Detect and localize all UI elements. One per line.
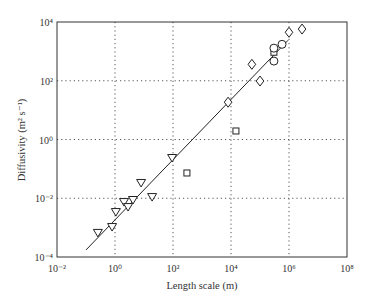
- x-axis-ticks: 10⁻²10⁰10²10⁴10⁶10⁸: [48, 263, 354, 274]
- diamond-marker: [298, 24, 306, 34]
- triangle-marker: [137, 179, 146, 187]
- chart: 10⁻²10⁰10²10⁴10⁶10⁸ 10⁻⁴10⁻²10⁰10²10⁴ Le…: [0, 0, 372, 299]
- y-tick-label: 10⁻⁴: [35, 252, 54, 263]
- y-axis-ticks: 10⁻⁴10⁻²10⁰10²10⁴: [35, 17, 54, 263]
- triangle-marker: [108, 224, 117, 232]
- y-axis-label: Diffusivity (m² s⁻¹): [16, 98, 28, 181]
- x-tick-label: 10⁸: [340, 263, 354, 274]
- x-tick-label: 10²: [167, 263, 180, 274]
- fit-line: [86, 40, 288, 250]
- y-tick-label: 10⁰: [39, 135, 53, 146]
- data-markers: [93, 24, 305, 237]
- x-tick-label: 10⁰: [108, 263, 122, 274]
- y-tick-label: 10²: [40, 76, 53, 87]
- circle-marker: [270, 57, 278, 65]
- y-tick-label: 10⁻²: [35, 193, 53, 204]
- x-tick-label: 10⁴: [224, 263, 238, 274]
- diamond-marker: [256, 76, 264, 86]
- grid-lines: [57, 22, 347, 257]
- triangle-marker: [111, 209, 120, 217]
- triangle-marker: [148, 194, 157, 202]
- circle-marker: [270, 44, 278, 52]
- x-tick-label: 10⁻²: [48, 263, 66, 274]
- square-marker: [184, 170, 190, 176]
- diamond-marker: [285, 27, 293, 37]
- x-tick-label: 10⁶: [282, 263, 296, 274]
- diamond-marker: [248, 59, 256, 69]
- square-marker: [233, 128, 239, 134]
- circle-marker: [278, 40, 286, 48]
- triangle-marker: [93, 229, 102, 237]
- x-axis-label: Length scale (m): [166, 280, 238, 292]
- triangle-marker: [168, 155, 177, 163]
- triangle-marker: [128, 197, 137, 205]
- plot-area-frame: [57, 22, 347, 257]
- y-tick-label: 10⁴: [40, 17, 54, 28]
